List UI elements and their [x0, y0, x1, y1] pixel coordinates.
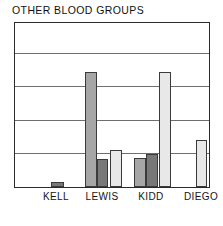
- bar-lewis-series-1: [85, 72, 97, 187]
- x-axis-label-kell: KELL: [43, 191, 69, 202]
- chart-title: OTHER BLOOD GROUPS: [12, 4, 144, 16]
- plot-area: [14, 22, 210, 188]
- bar-kell-series-2: [51, 182, 64, 187]
- bar-diego-series-3: [196, 140, 207, 187]
- bar-kidd-series-3: [159, 72, 171, 187]
- x-axis-label-diego: DIEGO: [184, 191, 218, 202]
- bars-layer: [15, 23, 209, 187]
- bar-kidd-series-2: [146, 154, 158, 187]
- bar-lewis-series-2: [97, 159, 108, 187]
- x-axis-labels: KELLLEWISKIDDDIEGO: [14, 191, 210, 211]
- bar-lewis-series-3: [110, 150, 122, 187]
- x-axis-label-lewis: LEWIS: [85, 191, 118, 202]
- x-axis-label-kidd: KIDD: [138, 191, 164, 202]
- bar-kidd-series-1: [134, 158, 146, 187]
- chart-container: OTHER BLOOD GROUPS KELLLEWISKIDDDIEGO: [0, 0, 223, 226]
